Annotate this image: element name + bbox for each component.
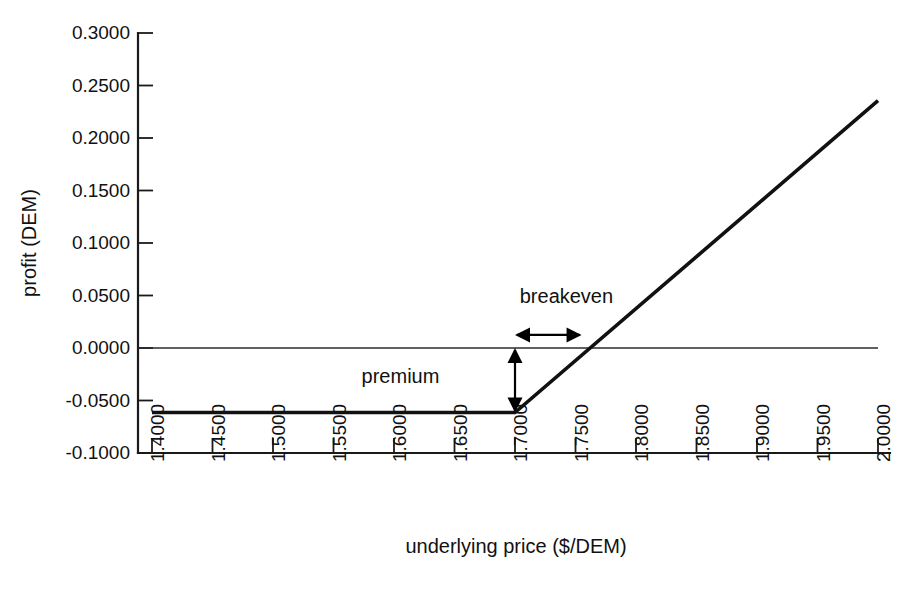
breakeven-label: breakeven	[520, 285, 613, 307]
premium-label: premium	[362, 365, 440, 387]
x-tick-label: 1.9000	[752, 404, 773, 462]
chart-canvas: 0.30000.25000.20000.15000.10000.05000.00…	[0, 0, 917, 599]
x-tick-label: 2.0000	[873, 404, 894, 462]
y-tick-label: 0.3000	[72, 22, 130, 43]
y-tick-label: 0.2500	[72, 75, 130, 96]
y-tick-label: -0.1000	[66, 442, 130, 463]
x-axis-title: underlying price ($/DEM)	[405, 535, 626, 557]
y-tick-label: 0.1500	[72, 180, 130, 201]
x-tick-label: 1.7500	[571, 404, 592, 462]
y-axis-title: profit (DEM)	[18, 189, 40, 297]
y-tick-label: 0.0500	[72, 285, 130, 306]
y-tick-label: -0.0500	[66, 390, 130, 411]
chart-figure: 0.30000.25000.20000.15000.10000.05000.00…	[0, 0, 917, 599]
x-tick-label: 1.8500	[692, 404, 713, 462]
y-tick-label: 0.2000	[72, 127, 130, 148]
y-tick-label: 0.0000	[72, 337, 130, 358]
x-tick-label: 1.9500	[813, 404, 834, 462]
y-tick-labels: 0.30000.25000.20000.15000.10000.05000.00…	[66, 22, 130, 463]
y-tick-label: 0.1000	[72, 232, 130, 253]
x-tick-label: 1.8000	[631, 404, 652, 462]
